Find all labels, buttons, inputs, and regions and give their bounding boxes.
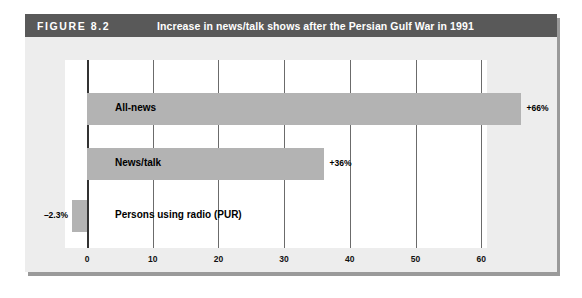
x-axis-tick-label: 20 [203,254,233,264]
figure-panel: FIGURE 8.2 Increase in news/talk shows a… [25,14,557,272]
bar-category-label: All-news [115,102,156,113]
bar-category-label: News/talk [115,157,161,168]
x-axis-tick-label: 0 [72,254,102,264]
frame-shadow-right [557,18,560,274]
x-axis-tick-label: 50 [401,254,431,264]
gridline-60 [481,60,482,248]
figure-title-text: Increase in news/talk shows after the Pe… [157,20,474,32]
bar-value-label: –2.3% [44,210,68,220]
x-axis-tick-label: 60 [466,254,496,264]
figure-title-bar: FIGURE 8.2 Increase in news/talk shows a… [25,14,557,37]
bar-category-label: Persons using radio (PUR) [115,209,242,220]
bar-value-label: +36% [330,158,352,168]
gridline-40 [350,60,351,248]
x-axis-tick-label: 40 [335,254,365,264]
gridline-50 [416,60,417,248]
frame-shadow-bottom [28,272,560,276]
figure-number-label: FIGURE 8.2 [25,20,157,32]
bar-value-label: +66% [527,103,549,113]
bar [72,200,87,232]
x-axis-tick-label: 10 [138,254,168,264]
x-axis-tick-label: 30 [269,254,299,264]
